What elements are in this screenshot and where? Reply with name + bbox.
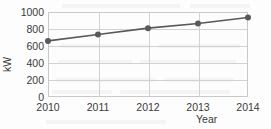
y-tick-label: 800 bbox=[0, 24, 44, 34]
gridline-horizontal bbox=[49, 80, 247, 81]
scan-artifact bbox=[62, 4, 180, 8]
gridline-horizontal bbox=[49, 46, 247, 47]
gridline-horizontal bbox=[49, 63, 247, 64]
gridline-vertical bbox=[99, 13, 100, 96]
line-chart: 1000 800 600 400 200 0 kW 2010 2011 2012… bbox=[0, 0, 271, 129]
scan-artifact bbox=[190, 4, 250, 8]
y-tick-label: 200 bbox=[0, 75, 44, 85]
y-tick-label: 1000 bbox=[0, 7, 44, 17]
gridline-horizontal bbox=[49, 29, 247, 30]
x-tick-label: 2010 bbox=[26, 101, 70, 113]
gridline-vertical bbox=[149, 13, 150, 96]
y-tick-label: 600 bbox=[0, 41, 44, 51]
x-tick-label: 2013 bbox=[176, 101, 220, 113]
x-tick-label: 2012 bbox=[126, 101, 170, 113]
x-tick-label: 2011 bbox=[76, 101, 120, 113]
gridline-vertical bbox=[199, 13, 200, 96]
x-tick-label: 2014 bbox=[226, 101, 270, 113]
plot-area bbox=[48, 12, 248, 97]
scan-artifact bbox=[46, 120, 166, 124]
y-axis-title: kW bbox=[1, 57, 13, 72]
x-axis-title: Year bbox=[196, 113, 217, 125]
